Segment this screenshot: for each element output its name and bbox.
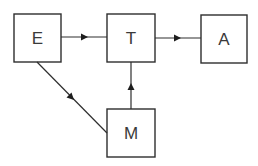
node-a: A [201,15,247,63]
arrowhead-icon [81,34,88,41]
edge-m-to-t [128,62,135,109]
arrowhead-icon [128,83,135,90]
edge-e-to-t [61,34,107,41]
arrowhead-icon [174,35,181,42]
node-t: T [107,14,155,62]
node-t-label: T [126,29,136,48]
node-e-label: E [32,29,43,48]
edge-t-to-a [155,35,201,42]
diagram-canvas: E T A M [0,0,258,166]
edge-e-to-m [37,62,107,133]
flow-diagram: E T A M [0,0,258,166]
node-a-label: A [218,30,230,49]
node-m: M [107,109,155,157]
node-e: E [14,14,61,62]
node-m-label: M [124,124,138,143]
